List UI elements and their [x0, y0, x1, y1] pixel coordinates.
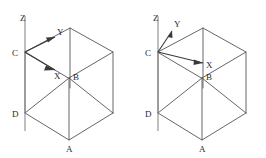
label-c: C [145, 48, 151, 58]
label-d: D [145, 109, 152, 119]
cube-top-face [25, 28, 113, 78]
cube-edge-right-to-b [202, 78, 246, 113]
cube-edge-right-to-b [69, 78, 113, 113]
label-z: Z [153, 13, 159, 23]
label-x: X [54, 71, 61, 81]
y-axis-arrow [25, 37, 55, 52]
y-axis-arrow [158, 31, 173, 52]
label-z: Z [20, 13, 26, 23]
label-y: Y [57, 27, 64, 37]
label-y: Y [174, 19, 181, 29]
diagram-canvas: Z Y X C B D A [0, 0, 266, 158]
left-figure-svg: Z Y X C B D A [0, 0, 133, 158]
right-figure: Z Y X C B D A [133, 0, 266, 158]
right-figure-svg: Z Y X C B D A [133, 0, 266, 158]
label-x: X [206, 60, 213, 70]
label-b: B [73, 72, 79, 82]
label-a: A [199, 144, 206, 154]
left-figure: Z Y X C B D A [0, 0, 133, 158]
x-axis-arrow [25, 52, 55, 71]
cube-edge-d-to-b [158, 78, 202, 113]
label-c: C [12, 48, 18, 58]
cube-edge-d-to-b [25, 78, 69, 113]
label-d: D [12, 109, 19, 119]
label-a: A [66, 144, 73, 154]
label-b: B [206, 72, 212, 82]
x-axis-arrow [158, 52, 203, 65]
